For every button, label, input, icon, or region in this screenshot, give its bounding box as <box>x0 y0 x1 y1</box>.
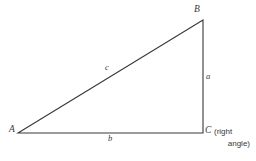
right-angle-annotation: (right angle) <box>214 126 256 149</box>
vertex-label-c: C <box>205 126 211 136</box>
right-angle-annotation-line-2: angle) <box>214 138 256 150</box>
side-label-a: a <box>206 72 210 81</box>
right-angle-annotation-line-1: (right <box>214 127 232 136</box>
side-label-b: b <box>108 134 112 143</box>
right-triangle-figure: A B C a b c (right angle) <box>0 0 256 161</box>
triangle-outline <box>18 20 203 133</box>
side-label-c: c <box>105 63 109 72</box>
vertex-label-a: A <box>9 125 15 135</box>
vertex-label-b: B <box>194 5 200 15</box>
